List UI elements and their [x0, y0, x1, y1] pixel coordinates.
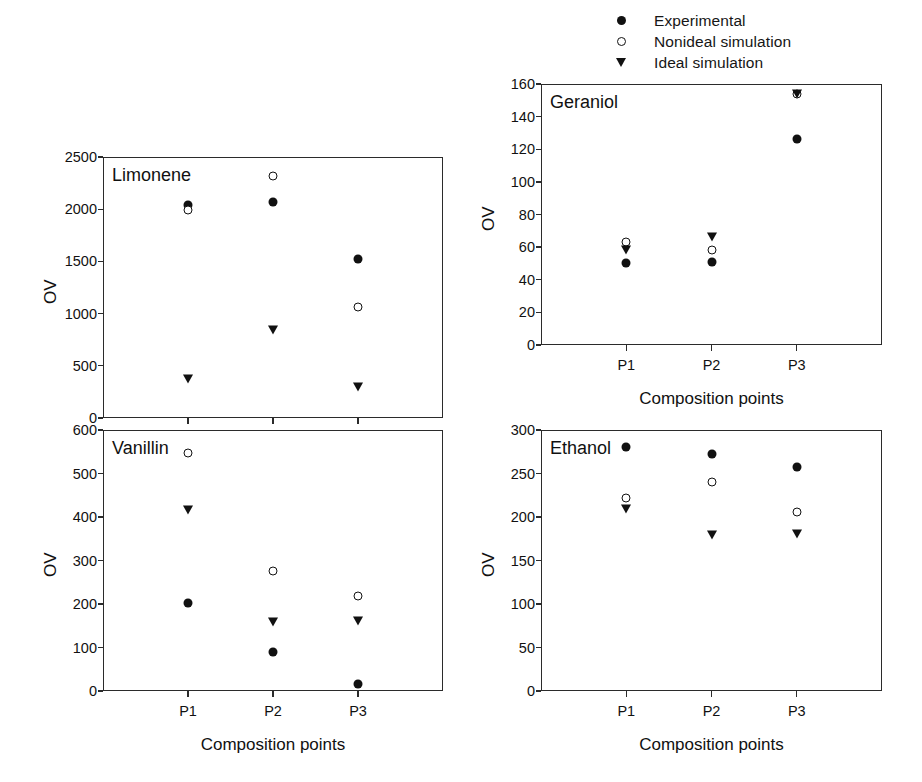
filled-triangle-down-icon: [268, 326, 278, 335]
y-axis-label: OV: [41, 279, 61, 304]
data-point: [707, 450, 716, 459]
y-axis-tick-label: 1000: [55, 306, 97, 322]
x-axis-tick-label: P2: [264, 703, 282, 719]
y-axis-tick-label: 50: [493, 640, 535, 656]
filled-triangle-down-icon: [621, 246, 631, 255]
x-axis-tick-mark: [711, 691, 712, 697]
x-axis-tick-label: P3: [788, 357, 806, 373]
y-axis-tick-label: 0: [493, 683, 535, 699]
y-axis-tick-mark: [536, 214, 541, 215]
y-axis-tick-mark: [98, 429, 103, 430]
y-axis-tick-label: 100: [493, 596, 535, 612]
y-axis-tick-mark: [98, 560, 103, 561]
y-axis-tick-label: 100: [493, 174, 535, 190]
data-point: [269, 197, 278, 206]
x-axis-tick-label: P1: [617, 357, 635, 373]
open-circle-icon: [354, 302, 363, 311]
filled-circle-icon: [707, 257, 716, 266]
data-point: [269, 566, 278, 575]
data-point: [792, 462, 801, 471]
filled-triangle-down-icon: [608, 58, 634, 67]
panel-title: Vanillin: [112, 438, 169, 459]
filled-triangle-down-icon: [707, 531, 717, 540]
open-circle-icon: [792, 507, 801, 516]
y-axis-tick-label: 500: [55, 358, 97, 374]
y-axis-tick-label: 400: [55, 509, 97, 525]
y-axis-tick-mark: [536, 473, 541, 474]
y-axis-tick-mark: [98, 516, 103, 517]
data-point: [268, 326, 278, 335]
filled-circle-icon: [622, 259, 631, 268]
x-axis-tick-label: P1: [179, 703, 197, 719]
filled-circle-icon: [354, 680, 363, 689]
filled-triangle-down-icon: [353, 383, 363, 392]
x-axis-tick-label: P3: [349, 703, 367, 719]
data-point: [354, 592, 363, 601]
panel-limonene: LimoneneOV05001000150020002500P1P2P3Comp…: [0, 70, 460, 410]
y-axis-tick-mark: [98, 261, 103, 262]
data-point: [184, 449, 193, 458]
x-axis-label: Composition points: [541, 735, 882, 755]
data-point: [707, 478, 716, 487]
y-axis-tick-label: 0: [55, 683, 97, 699]
filled-circle-icon: [269, 197, 278, 206]
y-axis-tick-mark: [536, 116, 541, 117]
data-point: [268, 617, 278, 626]
x-axis-tick-label: P2: [703, 703, 721, 719]
y-axis-tick-label: 60: [493, 239, 535, 255]
data-point: [792, 507, 801, 516]
x-axis-tick-mark: [796, 345, 797, 351]
figure-root: ExperimentalNonideal simulationIdeal sim…: [0, 0, 922, 782]
filled-circle-icon: [608, 16, 634, 25]
y-axis-tick-mark: [536, 149, 541, 150]
data-point: [183, 374, 193, 383]
data-point: [707, 246, 716, 255]
y-axis-tick-mark: [536, 246, 541, 247]
data-point: [707, 257, 716, 266]
y-axis-tick-mark: [98, 647, 103, 648]
data-point: [792, 89, 802, 98]
filled-circle-icon: [622, 442, 631, 451]
y-axis-tick-label: 120: [493, 141, 535, 157]
y-axis-tick-label: 2000: [55, 201, 97, 217]
legend-item: Nonideal simulation: [608, 31, 908, 52]
y-axis-tick-label: 150: [493, 553, 535, 569]
filled-circle-icon: [792, 462, 801, 471]
filled-triangle-down-icon: [707, 233, 717, 242]
panel-vanillin: VanillinOV0100200300400500600P1P2P3Compo…: [0, 413, 460, 753]
data-point: [707, 233, 717, 242]
y-axis-tick-label: 1500: [55, 253, 97, 269]
open-circle-icon: [608, 37, 634, 46]
legend-item-label: Nonideal simulation: [634, 33, 791, 51]
data-point: [353, 617, 363, 626]
y-axis-tick-label: 40: [493, 272, 535, 288]
y-axis-tick-label: 80: [493, 207, 535, 223]
open-circle-icon: [707, 478, 716, 487]
y-axis-tick-mark: [536, 603, 541, 604]
panel-geraniol: GeraniolOV020406080100120140160P1P2P3Com…: [460, 70, 922, 410]
data-point: [621, 246, 631, 255]
x-axis-tick-label: P3: [788, 703, 806, 719]
x-axis-tick-mark: [357, 691, 358, 697]
panel-title: Geraniol: [550, 92, 618, 113]
open-circle-icon: [184, 206, 193, 215]
filled-triangle-down-icon: [268, 617, 278, 626]
y-axis-tick-label: 300: [493, 422, 535, 438]
x-axis-tick-label: P2: [703, 357, 721, 373]
x-axis-tick-mark: [711, 345, 712, 351]
y-axis-tick-mark: [536, 516, 541, 517]
x-axis-label: Composition points: [103, 735, 443, 755]
y-axis-tick-mark: [536, 83, 541, 84]
filled-circle-icon: [354, 254, 363, 263]
filled-triangle-down-icon: [183, 506, 193, 515]
data-point: [354, 680, 363, 689]
y-axis-tick-mark: [536, 279, 541, 280]
filled-circle-icon: [269, 647, 278, 656]
y-axis-tick-mark: [98, 209, 103, 210]
y-axis-tick-label: 200: [55, 596, 97, 612]
y-axis-tick-mark: [536, 312, 541, 313]
y-axis-tick-mark: [98, 313, 103, 314]
legend-item-label: Experimental: [634, 12, 746, 30]
y-axis-tick-mark: [536, 429, 541, 430]
data-point: [622, 259, 631, 268]
